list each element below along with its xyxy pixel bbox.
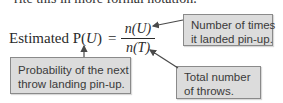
arrows-layer xyxy=(0,0,283,103)
arrow-to-denominator-icon xyxy=(150,50,178,68)
arrow-to-numerator-icon xyxy=(153,20,183,26)
